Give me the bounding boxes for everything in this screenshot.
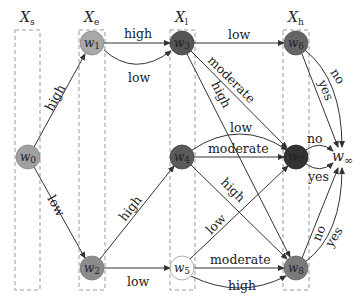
column-title-xs: Xs [19,9,35,27]
edge-w1-w3-low [104,50,171,64]
node-w-infinity: w∞ [332,148,353,167]
node-w4: w4 [170,145,194,169]
edge-w7-winf-no [306,145,333,151]
edge-label-w5-w8-moderate: moderate [210,252,271,267]
column-titles: Xs Xe Xl Xh [19,9,304,27]
edge-label-w5-w8-high: high [228,278,256,293]
edge-label-w5-w7: low [203,211,230,238]
diagram-canvas: Xs Xe Xl Xh [0,0,360,298]
column-boxes [15,30,309,290]
edge-label-w4-w8: high [218,175,248,205]
svg-text:w∞: w∞ [332,148,353,167]
edge-w2-w4 [100,166,174,259]
edge-label-w2-w5: low [127,274,150,289]
edge-label-w4-w7-moderate: moderate [208,141,269,156]
column-title-xh: Xh [287,9,304,27]
node-w7: w7 [284,145,308,169]
edge-label-w7-winf-yes: yes [307,169,329,184]
column-title-xl: Xl [174,9,188,27]
edge-label-w0-w2: low [44,192,68,219]
edge-w7-winf-yes [306,163,333,169]
edge-label-w1-w3-high: high [124,26,152,41]
node-w2: w2 [80,256,104,280]
node-w6: w6 [284,31,308,55]
nodes: w0 w1 w2 w3 w4 w5 w6 w7 [16,31,353,280]
column-box-xe [79,30,105,290]
node-w3: w3 [170,31,194,55]
edge-label-w1-w3-low: low [128,70,151,85]
edge-label-w3-w6: low [228,27,251,42]
column-title-xe: Xe [83,9,99,27]
node-w5: w5 [170,256,194,280]
edge-label-w7-winf-no: no [307,131,323,146]
node-w0: w0 [16,145,40,169]
node-w8: w8 [284,256,308,280]
edge-label-w0-w1: high [42,82,69,114]
edge-label-w4-w7-low: low [230,120,253,135]
node-w1: w1 [80,31,104,55]
state-transition-diagram: Xs Xe Xl Xh [0,0,360,298]
